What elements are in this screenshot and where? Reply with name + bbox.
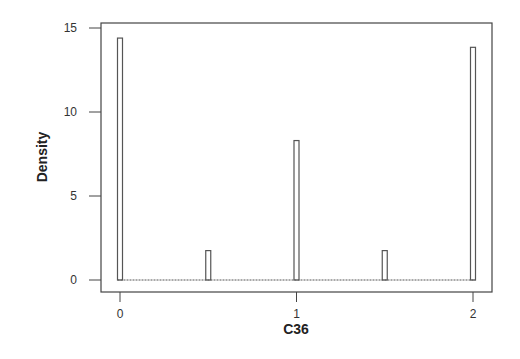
x-axis: 012 (117, 292, 477, 321)
y-tick-label: 5 (70, 189, 77, 203)
y-tick-label: 0 (70, 273, 77, 287)
y-tick-label: 10 (64, 105, 78, 119)
histogram-bar (471, 47, 476, 280)
histogram-bar (294, 141, 299, 280)
x-tick-label: 1 (293, 307, 300, 321)
y-axis-title: Density (34, 132, 50, 183)
x-tick-label: 0 (117, 307, 124, 321)
x-tick-label: 2 (470, 307, 477, 321)
y-axis: 051015 (64, 21, 101, 287)
histogram-chart: 051015 012 C36 Density (0, 0, 520, 359)
x-axis-title: C36 (283, 321, 309, 337)
histogram-bar (118, 38, 123, 280)
y-tick-label: 15 (64, 21, 78, 35)
bars-group (118, 38, 476, 280)
histogram-bar (206, 251, 211, 280)
histogram-bar (382, 251, 387, 280)
